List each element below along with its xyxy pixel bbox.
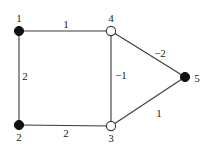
edge-label-4-3: −1 [115,69,127,81]
edge-3-5 [111,77,185,126]
edge-label-1-4: 1 [63,18,69,30]
node-2 [14,120,23,129]
node-label-4: 4 [108,12,114,24]
node-label-5: 5 [194,72,200,84]
edge-label-4-5: −2 [154,47,166,59]
edge-2-3 [19,125,111,126]
edge-label-3-5: 1 [156,107,162,119]
node-1 [14,26,23,35]
nodes-group [14,26,189,130]
node-5 [180,72,189,81]
node-4 [106,26,115,35]
node-label-1: 1 [16,12,22,24]
node-label-3: 3 [108,132,114,144]
edge-labels-group: 1 2 2 −1 −2 1 [22,18,166,139]
edge-label-2-3: 2 [63,127,69,139]
node-label-2: 2 [16,131,22,143]
node-3 [106,121,115,130]
graph-diagram: 1 2 2 −1 −2 1 1 2 3 4 5 [0,0,208,147]
edge-label-1-2: 2 [22,70,28,82]
